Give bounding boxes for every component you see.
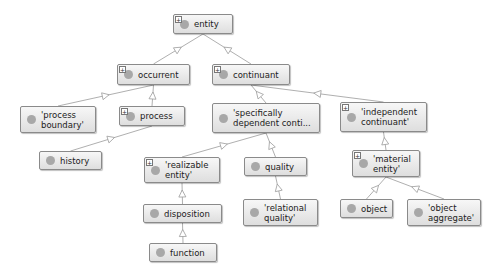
arrowhead-icon (173, 47, 181, 54)
arrowhead-icon (412, 186, 420, 193)
arrowhead-icon (275, 184, 282, 192)
class-node-process-boundary[interactable]: 'process boundary' (20, 106, 96, 133)
arrowhead-icon (382, 138, 389, 145)
expand-icon[interactable]: + (342, 104, 349, 111)
class-circle-icon (27, 115, 36, 124)
node-label: object (361, 204, 387, 214)
class-node-object[interactable]: object (340, 199, 393, 218)
node-label: function (170, 248, 205, 258)
class-node-realizable-entity[interactable]: +'realizable entity' (144, 157, 220, 183)
arrowhead-icon (314, 90, 321, 97)
class-node-quality[interactable]: quality (244, 157, 307, 176)
class-circle-icon (347, 204, 356, 213)
class-circle-icon (251, 162, 260, 171)
class-circle-icon (156, 248, 165, 257)
class-circle-icon (219, 114, 228, 123)
expand-icon[interactable]: + (146, 159, 153, 166)
class-node-function[interactable]: function (149, 243, 217, 262)
class-node-history[interactable]: history (39, 151, 102, 170)
arrowhead-icon (256, 91, 263, 99)
class-node-occurrent[interactable]: +occurrent (117, 64, 190, 85)
class-node-material-entity[interactable]: +'material entity' (352, 150, 420, 177)
class-circle-icon (359, 159, 368, 168)
class-node-relational-quality[interactable]: 'relational quality' (243, 199, 318, 226)
class-node-process[interactable]: +process (119, 106, 185, 126)
node-label: history (60, 156, 89, 166)
class-circle-icon (46, 156, 55, 165)
arrowhead-icon (224, 47, 232, 54)
arrowhead-icon (107, 136, 115, 143)
arrowhead-icon (269, 142, 276, 150)
class-node-object-aggregate[interactable]: 'object aggregate' (407, 199, 481, 226)
node-label: continuant (233, 70, 279, 80)
class-node-entity[interactable]: +entity (173, 14, 233, 34)
edge-layer (0, 0, 501, 279)
arrowhead-icon (179, 190, 186, 197)
node-label: 'relational quality' (264, 203, 306, 223)
expand-icon[interactable]: + (214, 66, 221, 73)
node-label: process (140, 111, 173, 121)
arrowhead-icon (220, 143, 228, 150)
expand-icon[interactable]: + (119, 66, 126, 73)
node-label: quality (265, 162, 294, 172)
node-label: occurrent (138, 70, 179, 80)
class-circle-icon (150, 209, 159, 218)
expand-icon[interactable]: + (175, 16, 182, 23)
node-label: 'realizable entity' (165, 160, 208, 180)
expand-icon[interactable]: + (354, 152, 361, 159)
arrowhead-icon (179, 230, 186, 237)
arrowhead-icon (102, 93, 110, 100)
node-label: disposition (164, 209, 210, 219)
class-node-specifically-dependent[interactable]: 'specifically dependent conti... (212, 103, 320, 133)
class-node-continuant[interactable]: +continuant (212, 64, 290, 85)
arrowhead-icon (149, 92, 156, 99)
node-label: entity (194, 19, 219, 29)
class-node-disposition[interactable]: disposition (143, 204, 222, 223)
class-circle-icon (347, 113, 356, 122)
node-label: 'specifically dependent conti... (233, 108, 311, 128)
class-circle-icon (250, 208, 259, 217)
class-circle-icon (414, 208, 423, 217)
node-label: 'independent continuant' (361, 107, 417, 127)
class-node-independent-continuant[interactable]: +'independent continuant' (340, 102, 427, 132)
node-label: 'process boundary' (41, 110, 84, 130)
expand-icon[interactable]: + (121, 108, 128, 115)
class-circle-icon (151, 166, 160, 175)
node-label: 'object aggregate' (428, 203, 474, 223)
node-label: 'material entity' (373, 154, 411, 174)
